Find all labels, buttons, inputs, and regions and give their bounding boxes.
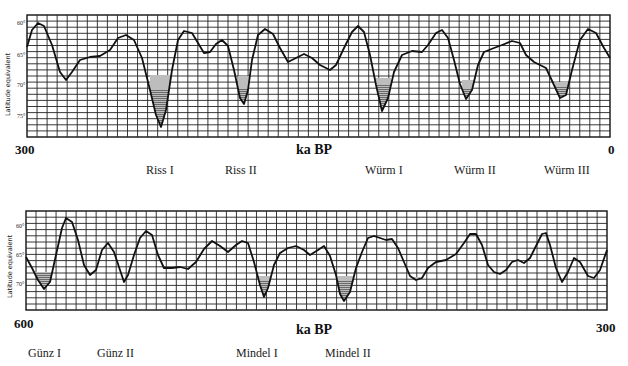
- bottom-y-tick-70: 70°: [16, 281, 24, 287]
- top-x-end-label: 0: [608, 142, 615, 158]
- top-y-tick-65: 65°: [17, 52, 25, 58]
- label-riss-2: Riss II: [225, 163, 257, 178]
- top-y-tick-75: 75°: [17, 113, 25, 119]
- label-wurm-2: Würm II: [454, 163, 496, 178]
- top-x-axis-unit: ka BP: [296, 142, 332, 158]
- label-gunz-2: Günz II: [97, 346, 134, 361]
- paleoclimate-chart: [0, 0, 628, 366]
- bottom-y-axis-label: Latitude equivalent: [6, 235, 14, 298]
- label-mindel-1: Mindel I: [236, 346, 278, 361]
- top-x-start-label: 300: [15, 142, 35, 158]
- top-y-axis-label: Latitude equivalent: [4, 53, 12, 116]
- top-y-tick-60: 60°: [17, 20, 25, 26]
- bottom-y-tick-65: 65°: [16, 252, 24, 258]
- label-gunz-1: Günz I: [28, 346, 61, 361]
- label-wurm-3: Würm III: [544, 163, 590, 178]
- bottom-x-end-label: 300: [596, 320, 616, 336]
- bottom-y-tick-60: 60°: [16, 223, 24, 229]
- label-wurm-1: Würm I: [365, 163, 403, 178]
- top-y-tick-70: 70°: [17, 82, 25, 88]
- bottom-x-start-label: 600: [14, 316, 34, 332]
- label-riss-1: Riss I: [146, 163, 174, 178]
- top-chart-grid: [27, 15, 610, 137]
- bottom-x-axis-unit: ka BP: [296, 322, 332, 338]
- label-mindel-2: Mindel II: [325, 346, 371, 361]
